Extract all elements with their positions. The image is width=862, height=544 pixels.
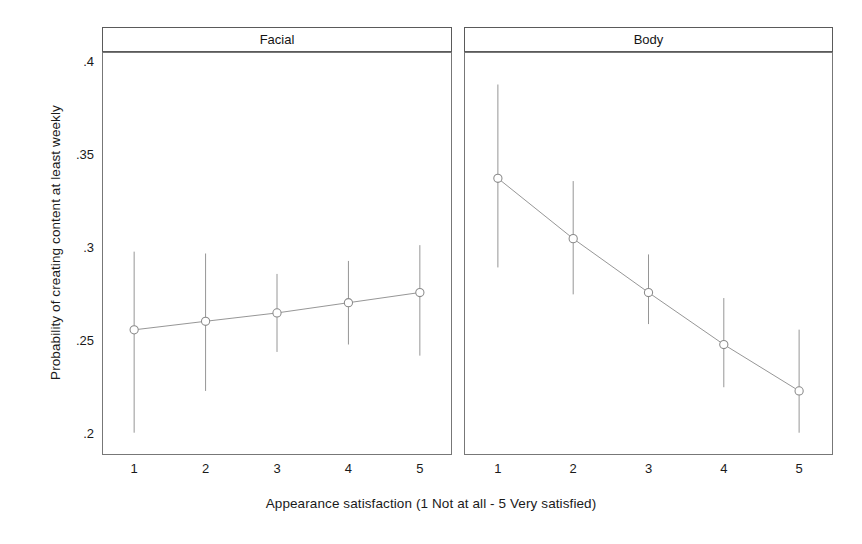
chart-figure: Probability of creating content at least…	[0, 0, 862, 544]
x-axis-tick-p1-3: 3	[634, 461, 664, 476]
x-axis-tick-p1-1: 1	[483, 461, 513, 476]
y-axis-tick-labels: .4.35.3.25.2	[52, 0, 94, 544]
x-axis-tick-p0-3: 3	[262, 461, 292, 476]
panel-header-body: Body	[464, 27, 833, 52]
y-axis-tick-3: .25	[52, 332, 94, 347]
plot-frame-body	[464, 52, 833, 455]
x-axis-tick-p1-4: 4	[709, 461, 739, 476]
y-axis-tick-4: .2	[52, 425, 94, 440]
plot-frame-facial	[102, 52, 452, 455]
y-axis-tick-2: .3	[52, 240, 94, 255]
x-axis-tick-p0-1: 1	[119, 461, 149, 476]
y-axis-tick-0: .4	[52, 54, 94, 69]
x-axis-label: Appearance satisfaction (1 Not at all - …	[0, 496, 862, 511]
x-axis-tick-p1-5: 5	[784, 461, 814, 476]
x-axis-tick-p0-4: 4	[333, 461, 363, 476]
panel-header-facial: Facial	[102, 27, 452, 52]
y-axis-tick-1: .35	[52, 147, 94, 162]
x-axis-tick-p1-2: 2	[558, 461, 588, 476]
x-axis-tick-p0-2: 2	[191, 461, 221, 476]
x-axis-tick-p0-5: 5	[405, 461, 435, 476]
panel-header-body-label: Body	[634, 32, 664, 47]
panel-header-facial-label: Facial	[260, 32, 295, 47]
